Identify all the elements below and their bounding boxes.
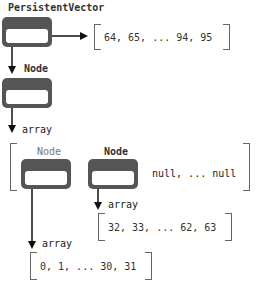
leaf-array-1: 32, 33, ... 62, 63 (98, 213, 232, 241)
child-node-1 (88, 159, 138, 189)
tail-values: 64, 65, ... 94, 95 (104, 32, 212, 43)
leaf-array-label-1: array (108, 199, 138, 211)
leaf-values-0: 0, 1, ... 30, 31 (40, 261, 136, 272)
root-node (2, 78, 52, 108)
tail-array: 64, 65, ... 94, 95 (94, 24, 230, 50)
null-values: null, ... null (152, 168, 236, 180)
persistent-vector-node (2, 17, 52, 47)
persistent-vector-label: PersistentVector (8, 2, 104, 14)
leaf-array-label-0: array (42, 238, 72, 250)
child-node-label-1: Node (104, 146, 128, 158)
leaf-values-1: 32, 33, ... 62, 63 (108, 222, 216, 233)
leaf-array-0: 0, 1, ... 30, 31 (30, 252, 152, 280)
array-label: array (22, 124, 52, 136)
child-node-label-0: Node (37, 146, 61, 158)
child-node-0 (21, 159, 71, 189)
root-node-label: Node (24, 63, 48, 75)
